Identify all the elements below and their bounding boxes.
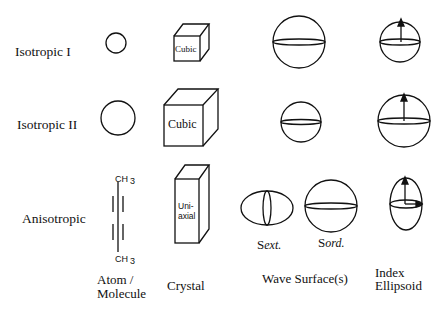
column-label-crystal: Crystal bbox=[167, 279, 205, 292]
ch3-bottom: CH3 bbox=[115, 253, 135, 266]
uniaxial-label-2: axial bbox=[178, 210, 195, 223]
isotropic-atom-small bbox=[106, 33, 126, 53]
column-label-atom-molecule-1: Atom / bbox=[97, 273, 133, 286]
molecule-diagram bbox=[113, 182, 123, 252]
index-ellipsoid-sphere-2 bbox=[378, 94, 430, 147]
wave-surface-sphere-2 bbox=[281, 102, 321, 142]
ch3-top: CH3 bbox=[115, 173, 135, 186]
optics-diagram bbox=[0, 0, 443, 310]
wave-surface-ordinary bbox=[305, 180, 357, 232]
column-label-index-ellipsoid-2: Ellipsoid bbox=[375, 279, 422, 292]
column-label-atom-molecule-2: Molecule bbox=[97, 287, 146, 300]
index-ellipsoid-sphere-1 bbox=[380, 19, 420, 62]
isotropic-atom-large bbox=[101, 101, 135, 135]
cubic-label-2: Cubic bbox=[168, 118, 197, 131]
wave-surface-sphere-1 bbox=[273, 16, 325, 68]
s-ord-label: Sord. bbox=[318, 236, 344, 250]
column-label-wave-surfaces: Wave Surface(s) bbox=[262, 272, 348, 285]
cubic-label-1: Cubic bbox=[175, 43, 197, 56]
wave-surface-extraordinary bbox=[241, 191, 293, 225]
s-ext-label: Sext. bbox=[257, 238, 281, 252]
index-ellipsoid-uniaxial bbox=[390, 177, 422, 230]
